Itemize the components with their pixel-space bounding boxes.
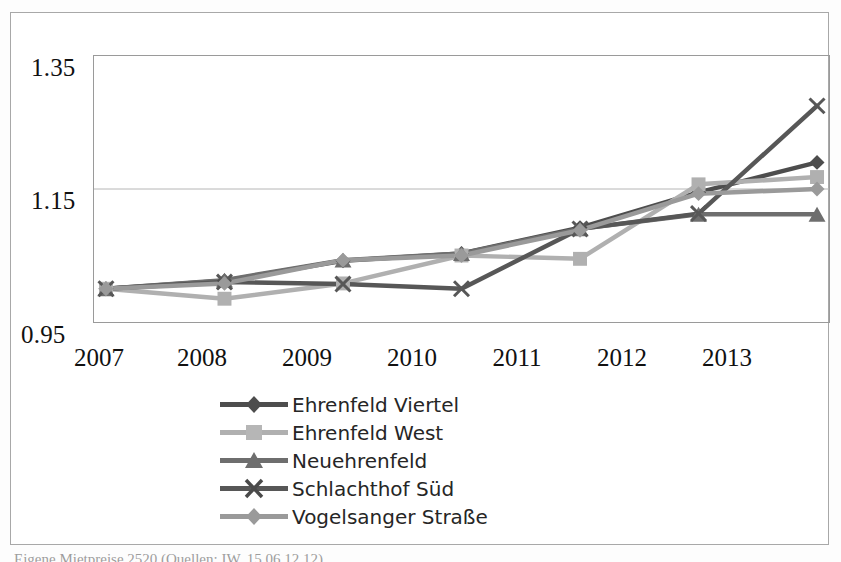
legend-item-vogelsanger-strasse: Vogelsanger Straße (218, 503, 488, 530)
triangle-marker-icon (218, 447, 290, 474)
legend-label: Ehrenfeld Viertel (290, 393, 459, 417)
plot-area (93, 55, 830, 323)
legend-label: Vogelsanger Straße (290, 505, 488, 529)
legend-item-schlachthof-sued: Schlachthof Süd (218, 475, 488, 502)
legend-label: Neuehrenfeld (290, 449, 427, 473)
x-tick-label-2008: 2008 (152, 345, 252, 370)
legend-item-neuehrenfeld: Neuehrenfeld (218, 447, 488, 474)
y-tick-label-3: 0.95 (21, 322, 66, 347)
x-tick-label-2012: 2012 (572, 345, 672, 370)
x-tick-label-2011: 2011 (467, 345, 567, 370)
x-tick-label-2013: 2013 (677, 345, 777, 370)
chart-canvas (94, 56, 829, 322)
legend-item-ehrenfeld-viertel: Ehrenfeld Viertel (218, 391, 488, 418)
y-tick-label-2: 1.15 (31, 188, 76, 213)
legend-label: Ehrenfeld West (290, 421, 443, 445)
y-tick-label-1: 1.35 (31, 55, 76, 80)
figure-caption: Eigene Mietpreise 2520 (Quellen: IW, 15.… (14, 551, 634, 562)
legend-item-ehrenfeld-west: Ehrenfeld West (218, 419, 488, 446)
chart-legend: Ehrenfeld Viertel Ehrenfeld West (218, 391, 488, 530)
diamond-marker-icon (218, 391, 290, 418)
x-tick-label-2009: 2009 (257, 345, 357, 370)
x-tick-label-2010: 2010 (362, 345, 462, 370)
diamond-marker-icon (218, 503, 290, 530)
x-tick-label-2007: 2007 (49, 345, 149, 370)
cross-marker-icon (218, 475, 290, 502)
legend-label: Schlachthof Süd (290, 477, 454, 501)
figure-container: 1.35 1.15 0.95 2007 2008 2009 2010 2011 … (0, 0, 841, 562)
square-marker-icon (218, 419, 290, 446)
